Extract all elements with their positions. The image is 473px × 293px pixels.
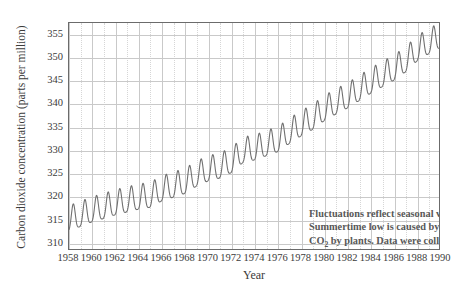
y-tick-label: 320 [3, 191, 63, 201]
y-tick-label: 330 [3, 145, 63, 155]
y-tick-label: 335 [3, 122, 63, 132]
annotation-line-2: Summertime low is caused by uptake of [309, 220, 440, 233]
y-tick-label: 315 [3, 215, 63, 225]
y-tick-label: 310 [3, 238, 63, 248]
y-tick-label: 345 [3, 75, 63, 85]
x-axis-tick-labels: 1958196019621964196619681970197219741976… [68, 252, 440, 266]
annotation-line-1: Fluctuations reflect seasonal variation. [309, 207, 440, 220]
y-tick-label: 355 [3, 29, 63, 39]
y-tick-label: 325 [3, 168, 63, 178]
y-axis-tick-labels: 310315320325330335340345350355 [0, 22, 63, 250]
annotation-co2-text: CO [309, 235, 324, 246]
annotation-line-3-rest: by plants. Data were collected at [328, 235, 440, 246]
x-axis-title: Year [68, 268, 440, 283]
y-tick-label: 350 [3, 52, 63, 62]
annotation-line-3: CO2 by plants. Data were collected at [309, 234, 440, 250]
co2-concentration-chart: Carbon dioxide concentration (parts per … [0, 0, 473, 293]
co2-curve-path [69, 26, 440, 230]
y-tick-label: 340 [3, 98, 63, 108]
x-tick-label: 1990 [420, 252, 460, 264]
chart-annotation: Fluctuations reflect seasonal variation.… [309, 207, 440, 250]
plot-area: Fluctuations reflect seasonal variation.… [68, 22, 440, 250]
